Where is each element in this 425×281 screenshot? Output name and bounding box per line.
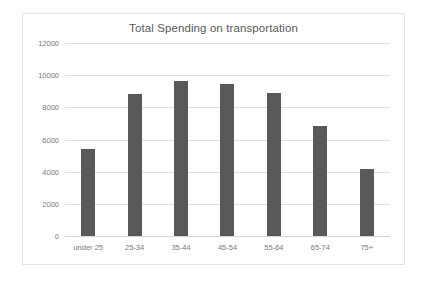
- bar-group: 35-44: [158, 43, 204, 236]
- bar-group: 45-54: [204, 43, 250, 236]
- bar-series: under 2525-3435-4445-5455-6465-7475+: [65, 43, 390, 236]
- y-axis-tick-label: 10000: [38, 71, 59, 80]
- x-axis-tick-label: under 25: [73, 243, 103, 252]
- y-axis-tick-label: 6000: [42, 135, 59, 144]
- bar-group: 75+: [344, 43, 390, 236]
- bar: [81, 149, 95, 236]
- x-axis-tick-label: 45-54: [218, 243, 237, 252]
- bar: [267, 93, 281, 236]
- y-axis-tick-label: 2000: [42, 199, 59, 208]
- plot-area: 020004000600080001000012000 under 2525-3…: [65, 43, 390, 236]
- x-axis-tick-label: 55-64: [264, 243, 283, 252]
- x-axis-tick-label: 65-74: [311, 243, 330, 252]
- bar: [220, 84, 234, 236]
- bar-group: under 25: [65, 43, 111, 236]
- x-axis-tick-label: 25-34: [125, 243, 144, 252]
- y-axis-tick-label: 8000: [42, 103, 59, 112]
- y-axis-tick-label: 0: [55, 232, 59, 241]
- bar: [360, 169, 374, 236]
- gridline-0: [65, 236, 390, 237]
- bar-group: 25-34: [111, 43, 157, 236]
- bar: [313, 126, 327, 236]
- chart-frame: Total Spending on transportation 0200040…: [22, 13, 405, 265]
- bar: [174, 81, 188, 236]
- chart-title: Total Spending on transportation: [23, 22, 404, 34]
- y-axis-tick-label: 12000: [38, 39, 59, 48]
- bar: [128, 94, 142, 236]
- y-axis-tick-label: 4000: [42, 167, 59, 176]
- x-axis-tick-label: 75+: [360, 243, 373, 252]
- x-axis-tick-label: 35-44: [171, 243, 190, 252]
- bar-group: 55-64: [251, 43, 297, 236]
- bar-group: 65-74: [297, 43, 343, 236]
